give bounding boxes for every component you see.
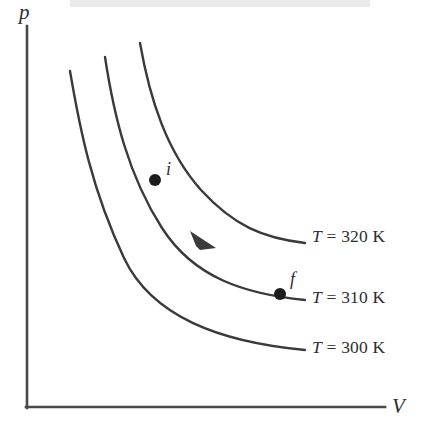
temperature-symbol: T [312,226,322,246]
temperature-value: 300 [341,337,368,357]
isotherm-label-310k: T = 310 K [312,289,385,307]
p-axis-label: p [19,2,30,23]
temperature-unit: K [368,226,385,246]
isotherm-curve-300k [70,71,305,350]
isotherm-curve-320k [140,43,305,243]
temperature-symbol: T [312,337,322,357]
equals-sign: = [322,287,341,307]
state-point-i-label: i [166,160,171,178]
equals-sign: = [322,226,341,246]
v-axis-label: V [392,396,405,417]
temperature-symbol: T [312,287,322,307]
temperature-unit: K [368,337,385,357]
temperature-value: 320 [341,226,368,246]
isotherm-label-300k: T = 300 K [312,339,385,357]
isotherm-label-320k: T = 320 K [312,228,385,246]
diagram-canvas [0,0,425,436]
process-direction-arrow-icon [190,231,216,250]
equals-sign: = [322,337,341,357]
state-point-f-marker [274,288,286,300]
state-point-i-marker [149,174,161,186]
temperature-value: 310 [341,287,368,307]
pv-diagram-figure: p V i f T = 320 K T = 310 K T = 300 K [0,0,425,436]
isotherm-curve-310k [105,57,305,300]
state-point-f-label: f [290,270,295,288]
temperature-unit: K [368,287,385,307]
